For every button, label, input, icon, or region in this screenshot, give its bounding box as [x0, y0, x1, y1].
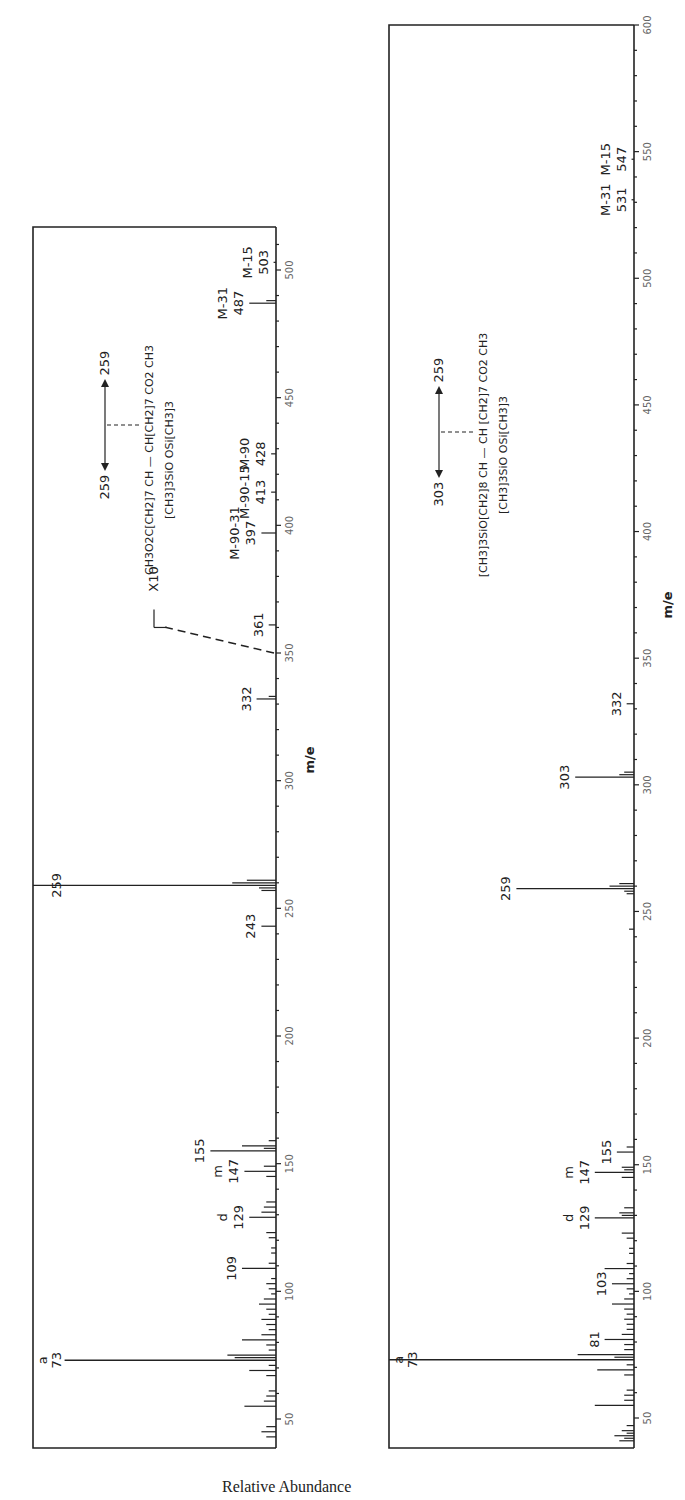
peak-label: 428	[253, 441, 268, 466]
arrow-left-icon	[101, 463, 109, 471]
x-tick-label: 450	[642, 395, 653, 414]
x-axis-label: m/e	[302, 746, 317, 773]
peak-label: 155	[192, 1138, 207, 1163]
peak-sublabel: M-90	[237, 438, 252, 470]
mass-spectra-figure: 50100150200250300350400450500m/e73a10912…	[0, 0, 685, 1500]
structure-formula-line2: [CH3]3SiO OSi[CH3]3	[497, 396, 510, 514]
y-axis-label: Relative Abundance	[222, 1478, 351, 1496]
structure-formula-line2: [CH3]3SiO OSi[CH3]3	[163, 401, 176, 519]
spectrum-panel-bottom: 50100150200250300350400450500550600m/e73…	[389, 15, 675, 1448]
structure-formula-line1: CH3O2C[CH2]7 CH — CH[CH2]7 CO2 CH3	[143, 345, 156, 575]
x-axis-label: m/e	[660, 591, 675, 618]
x-tick-label: 500	[642, 269, 653, 288]
cleavage-right-label: 259	[431, 358, 446, 383]
peak-sublabel: m	[210, 1165, 225, 1178]
arrow-right-icon	[101, 379, 109, 387]
x-tick-label: 400	[284, 516, 295, 535]
peak-sublabel: a	[391, 1356, 406, 1364]
x-tick-label: 600	[642, 15, 653, 34]
x-tick-label: 150	[642, 1155, 653, 1174]
spectrum-panel-top: 50100150200250300350400450500m/e73a10912…	[33, 227, 317, 1448]
x-tick-label: 350	[642, 649, 653, 668]
peak-label: 332	[239, 687, 254, 712]
peak-label: 109	[224, 1256, 239, 1281]
peak-sublabel: M-15	[240, 246, 255, 278]
x-tick-label: 200	[642, 1029, 653, 1048]
peak-label: 397	[243, 521, 258, 546]
x-tick-label: 350	[284, 643, 295, 662]
cleavage-left-label: 259	[97, 475, 112, 500]
x-tick-label: 150	[284, 1154, 295, 1173]
peak-sublabel: M-31	[598, 184, 613, 216]
x-tick-label: 500	[284, 260, 295, 279]
peak-sublabel: d	[215, 1213, 230, 1221]
structure-formula-line1: [CH3]3SiO[CH2]8 CH — CH [CH2]7 CO2 CH3	[477, 333, 490, 577]
x-tick-label: 450	[284, 388, 295, 407]
peak-label: 303	[557, 765, 572, 790]
peak-label: 155	[599, 1140, 614, 1165]
x-tick-label: 300	[284, 771, 295, 790]
peak-label: 531	[614, 187, 629, 212]
x-tick-label: 250	[284, 899, 295, 918]
peak-label: 332	[609, 691, 624, 716]
peak-label: 243	[243, 914, 258, 939]
peak-label: 81	[587, 1331, 602, 1348]
peak-sublabel: m	[561, 1166, 576, 1179]
x-tick-label: 100	[284, 1282, 295, 1301]
peak-label: 413	[253, 480, 268, 505]
figure-stage: 50100150200250300350400450500m/e73a10912…	[0, 0, 685, 1500]
x-tick-label: 100	[642, 1282, 653, 1301]
x10-label: X10	[146, 566, 161, 591]
peak-sublabel: d	[561, 1214, 576, 1222]
x-tick-label: 550	[642, 142, 653, 161]
peak-label: 129	[231, 1205, 246, 1230]
peak-label: 487	[231, 291, 246, 316]
peak-sublabel: a	[35, 1356, 50, 1364]
panel-frame	[389, 25, 634, 1448]
peak-label: 129	[577, 1206, 592, 1231]
x-tick-label: 200	[284, 1026, 295, 1045]
peak-label: 259	[49, 873, 64, 898]
peak-label: 547	[614, 147, 629, 172]
peak-label: 503	[256, 250, 271, 275]
peak-sublabel: M-31	[215, 287, 230, 319]
peak-label: 147	[226, 1159, 241, 1184]
arrow-left-icon	[435, 470, 443, 478]
peak-label: 259	[498, 876, 513, 901]
peak-label: 103	[594, 1271, 609, 1296]
peak-sublabel: M-90-15	[237, 465, 252, 519]
x-tick-label: 50	[642, 1412, 653, 1425]
arrow-right-icon	[435, 386, 443, 394]
x-tick-label: 50	[284, 1413, 295, 1426]
x-tick-label: 400	[642, 522, 653, 541]
peak-label: 73	[405, 1351, 420, 1368]
x-tick-label: 300	[642, 775, 653, 794]
peak-sublabel: M-15	[598, 143, 613, 175]
cleavage-left-label: 303	[431, 482, 446, 507]
peak-label: 361	[251, 612, 266, 637]
peak-label: 147	[577, 1160, 592, 1185]
x-tick-label: 250	[642, 902, 653, 921]
peak-label: 73	[49, 1352, 64, 1369]
cleavage-right-label: 259	[97, 351, 112, 376]
